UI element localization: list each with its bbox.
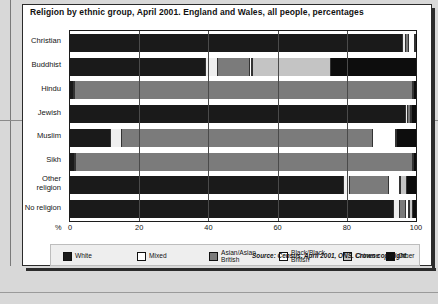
stacked-bars (70, 31, 416, 221)
bar-segment (414, 153, 416, 171)
bar-segment (70, 105, 405, 123)
category-label: Hindu (0, 85, 61, 94)
category-label: Muslim (0, 132, 61, 141)
legend-label: Mixed (149, 252, 167, 259)
x-tick-label: 80 (343, 223, 351, 232)
x-axis-ticks: 020406080100 (69, 223, 417, 237)
category-label: Jewish (0, 109, 61, 118)
category-axis-labels: ChristianBuddhistHinduJewishMuslimSikhOt… (0, 30, 66, 222)
bar-segment (70, 34, 402, 52)
bar-segment (70, 176, 343, 194)
bar-segment (407, 176, 416, 194)
bar-segment (397, 129, 416, 147)
bar-segment (400, 176, 407, 194)
legend-item: Asian/Asian British (209, 248, 256, 264)
x-tick-label: 20 (135, 223, 143, 232)
plot-area (69, 30, 417, 222)
category-label: Buddhist (0, 61, 61, 70)
x-tick-label: 40 (204, 223, 212, 232)
x-axis-unit-label: % (55, 223, 62, 232)
bar-row (70, 34, 416, 52)
page-rule-bottom (0, 292, 438, 293)
chart-screenshot: Religion by ethnic group, April 2001. En… (0, 0, 438, 304)
bar-row (70, 153, 416, 171)
bar-segment (75, 81, 412, 99)
legend-item: Mixed (137, 248, 167, 264)
source-note: Source: Census, April 2001, ONS. Crown c… (252, 252, 408, 259)
x-tick-label: 0 (68, 223, 72, 232)
chart-title: Religion by ethnic group, April 2001. En… (30, 7, 430, 17)
x-tick-label: 100 (410, 223, 422, 232)
legend-swatch (137, 252, 146, 261)
gridline (139, 31, 140, 221)
bar-row (70, 105, 416, 123)
legend-item: White (63, 248, 92, 264)
legend-label: White (75, 252, 92, 259)
bar-segment (350, 176, 388, 194)
bar-row (70, 129, 416, 147)
category-label: Christian (0, 37, 61, 46)
bar-row (70, 176, 416, 194)
bar-segment (414, 81, 416, 99)
category-label: Sikh (0, 156, 61, 165)
legend-label: Asian/Asian British (221, 249, 256, 263)
bar-segment (218, 58, 249, 76)
bar-segment (76, 153, 412, 171)
gridline (278, 31, 279, 221)
bar-segment (110, 129, 122, 147)
legend-swatch (209, 252, 218, 261)
bar-row (70, 81, 416, 99)
category-label: Otherreligion (0, 175, 61, 192)
bar-row (70, 58, 416, 76)
gridline (347, 31, 348, 221)
legend-swatch (63, 252, 72, 261)
bar-segment (413, 200, 416, 218)
panel-shadow-bottom (26, 268, 436, 271)
category-label: No religion (0, 204, 61, 213)
bar-segment (408, 34, 415, 52)
bar-row (70, 200, 416, 218)
bar-segment (122, 129, 373, 147)
bar-segment (331, 58, 416, 76)
x-tick-label: 60 (273, 223, 281, 232)
bar-segment (412, 105, 416, 123)
bar-segment (372, 129, 396, 147)
bar-segment (70, 129, 110, 147)
panel-shadow-right (432, 8, 435, 270)
bar-segment (205, 58, 218, 76)
bar-segment (388, 176, 400, 194)
bar-segment (393, 200, 400, 218)
bar-segment (70, 58, 205, 76)
bar-segment (252, 58, 331, 76)
bar-segment (70, 200, 393, 218)
gridline (208, 31, 209, 221)
